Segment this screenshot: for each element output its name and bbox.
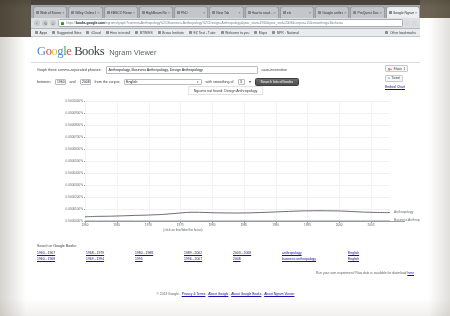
browser-tab[interactable]: Web of Science [v× xyxy=(33,6,67,18)
search-link[interactable]: anthropology xyxy=(282,251,348,255)
series-label[interactable]: Anthropology xyxy=(394,210,413,214)
share-label: Share xyxy=(394,67,403,71)
chart-series-lines xyxy=(85,101,390,221)
browser-tab[interactable]: Google Ngram Viewer× xyxy=(386,6,420,18)
bookmark-item[interactable]: BTW/ES xyxy=(135,31,153,35)
footer-links[interactable]: - Privacy & Terms - About Google - About… xyxy=(180,292,295,296)
close-icon[interactable]: × xyxy=(415,11,417,15)
tab-favicon-icon xyxy=(283,11,286,14)
search-links-column: 1989 - 20021996 - 2007 xyxy=(184,251,233,261)
corpus-label: from the corpus xyxy=(95,80,120,84)
raw-data-download-link[interactable]: here xyxy=(407,271,414,275)
close-icon[interactable]: × xyxy=(274,11,276,15)
tab-favicon-icon xyxy=(353,11,356,14)
search-link[interactable]: 1969 - 1994 xyxy=(86,257,135,261)
back-button[interactable]: ‹ xyxy=(34,20,40,26)
series-line[interactable] xyxy=(85,211,390,217)
y-axis-tick-label: 0.0000800% xyxy=(66,123,83,127)
smoothing-input[interactable]: 3 xyxy=(238,79,245,85)
bookmark-item[interactable]: EZ Test - Tutor xyxy=(189,31,216,35)
address-bar[interactable]: https://books.google.com/ngrams/graph?co… xyxy=(58,19,403,27)
search-links-grid[interactable]: 1960 - 19671960 - 19681968 - 19791969 - … xyxy=(37,251,414,261)
bookmark-favicon-icon xyxy=(35,31,38,34)
google-books-logo[interactable]: Google Books xyxy=(37,44,104,59)
search-link[interactable]: English xyxy=(348,257,359,261)
footer-link[interactable]: Privacy & Terms xyxy=(182,292,206,296)
search-button[interactable]: Search lots of books xyxy=(255,78,300,86)
case-insensitive-label[interactable]: case-insensitive xyxy=(262,68,288,72)
year-start-input[interactable]: 1960 xyxy=(55,79,66,85)
tweet-button[interactable]: ● Tweet xyxy=(385,75,403,82)
browser-tab-title: Google Ngram Viewer xyxy=(393,11,414,15)
corpus-select[interactable]: English ▾ xyxy=(124,79,202,86)
bookmark-favicon-icon xyxy=(158,31,161,34)
search-link[interactable]: 1995 xyxy=(135,257,184,261)
footer-link[interactable]: About Google Books xyxy=(231,292,261,296)
other-bookmarks-item[interactable]: Other bookmarks xyxy=(385,31,416,35)
corpus-select-value: English xyxy=(126,80,137,84)
close-icon[interactable]: × xyxy=(62,11,64,15)
close-icon[interactable]: × xyxy=(309,11,311,15)
search-link[interactable]: 1960 - 1967 xyxy=(37,251,86,255)
year-end-input[interactable]: 2008 xyxy=(80,79,91,85)
footer-link[interactable]: About Google xyxy=(208,292,228,296)
browser-tab[interactable]: HighBeam Research× xyxy=(139,6,173,18)
search-link[interactable]: 1989 - 2002 xyxy=(184,251,233,255)
tab-favicon-icon xyxy=(71,11,74,14)
footer-link[interactable]: About Ngram Viewer xyxy=(264,292,294,296)
chart-plot-area[interactable]: 0.0000000%0.0000100%0.0000200%0.0000300%… xyxy=(85,101,390,221)
page-title: Ngram Viewer xyxy=(109,48,156,57)
browser-tab[interactable]: etc× xyxy=(280,6,314,18)
bookmark-item[interactable]: Suggested Sites xyxy=(52,31,81,35)
close-icon[interactable]: × xyxy=(203,11,205,15)
browser-tab[interactable]: New Tab× xyxy=(209,6,243,18)
search-link[interactable]: 1980 - 1988 xyxy=(135,251,184,255)
bookmark-item[interactable]: iCloud xyxy=(86,31,100,35)
bookmark-label: How to install xyxy=(110,31,130,35)
browser-tab[interactable]: EBSCO Resource of× xyxy=(104,6,138,18)
browser-tab[interactable]: Wiley Online Library× xyxy=(68,6,102,18)
browser-tab[interactable]: Google anthropol...× xyxy=(315,6,349,18)
menu-icon[interactable] xyxy=(412,21,417,26)
search-link[interactable]: 1960 - 1968 xyxy=(37,257,86,261)
bookmark-item[interactable]: NPR : National xyxy=(272,31,299,35)
browser-tabstrip[interactable]: Web of Science [v×Wiley Online Library×E… xyxy=(31,5,420,18)
x-axis-tick-label: 1975 xyxy=(177,223,184,227)
browser-tab[interactable]: How to read ...× xyxy=(245,6,279,18)
smoothing-stepper-icon[interactable]: ▾ xyxy=(249,80,251,84)
bookmark-item[interactable]: Apps xyxy=(35,31,47,35)
close-icon[interactable]: × xyxy=(344,11,346,15)
bookmark-label: iCloud xyxy=(91,31,101,35)
bookmark-item[interactable]: Brava Institute xyxy=(158,31,184,35)
other-bookmarks-label: Other bookmarks xyxy=(390,31,416,35)
phrases-input[interactable]: Anthropology, Business Anthropology, Des… xyxy=(106,66,258,74)
bookmarks-bar[interactable]: AppsSuggested SitesiCloudHow to installB… xyxy=(31,29,420,37)
tab-favicon-icon xyxy=(142,11,145,14)
search-link[interactable]: 2008 xyxy=(233,257,282,261)
chart-title: Ngrams not found: Design Anthropology xyxy=(188,86,264,95)
search-link[interactable]: 2003 - 2008 xyxy=(233,251,282,255)
reload-button[interactable]: ↻ xyxy=(42,20,48,26)
search-link[interactable]: business anthropology xyxy=(282,257,348,261)
close-icon[interactable]: × xyxy=(133,11,135,15)
series-label[interactable]: Business Anthropology xyxy=(394,218,420,222)
google-plus-share-button[interactable]: g+ Share 1 xyxy=(385,65,408,72)
tweet-label: Tweet xyxy=(392,76,401,80)
browser-tab[interactable]: ProQuest Document× xyxy=(350,6,384,18)
close-icon[interactable]: × xyxy=(168,11,170,15)
home-button[interactable]: ⌂ xyxy=(50,20,56,26)
search-link[interactable]: 1996 - 2007 xyxy=(184,257,233,261)
browser-tab[interactable]: PhD× xyxy=(174,6,208,18)
bookmark-item[interactable]: Welcome to you xyxy=(221,31,250,35)
x-axis-tick-label: 1965 xyxy=(113,223,120,227)
bookmark-item[interactable]: Maps xyxy=(254,31,267,35)
bookmark-item[interactable]: How to install xyxy=(106,31,131,35)
close-icon[interactable]: × xyxy=(239,11,241,15)
page-left-gutter xyxy=(0,37,31,316)
search-link[interactable]: English xyxy=(348,251,359,255)
search-link[interactable]: 1968 - 1979 xyxy=(86,251,135,255)
bookmark-favicon-icon xyxy=(106,31,109,34)
close-icon[interactable]: × xyxy=(97,11,99,15)
star-icon[interactable] xyxy=(405,21,410,26)
close-icon[interactable]: × xyxy=(380,11,382,15)
